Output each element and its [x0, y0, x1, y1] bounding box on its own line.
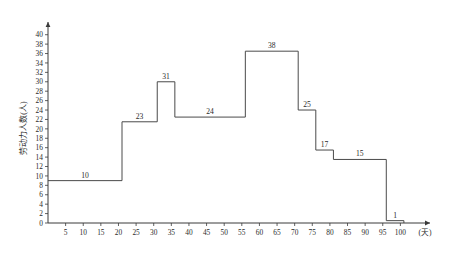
y-axis-tick-label: 8 [39, 181, 43, 190]
step-value-label: 24 [206, 107, 214, 116]
x-axis-arrow-icon [425, 221, 430, 226]
x-axis-tick-label: 45 [203, 228, 211, 237]
x-axis-tick-label: 70 [291, 228, 299, 237]
x-axis-tick-label: 85 [344, 228, 352, 237]
y-axis-title: 劳动力人数(人) [18, 101, 28, 155]
step-value-label: 38 [268, 41, 276, 50]
labor-force-step-chart: 0246810121416182022242628303234363840510… [0, 0, 464, 256]
y-axis-tick-label: 24 [36, 106, 44, 115]
step-value-label: 17 [321, 140, 329, 149]
x-axis-tick-label: 65 [273, 228, 281, 237]
step-value-label: 15 [356, 149, 364, 158]
y-axis-tick-label: 38 [36, 40, 44, 49]
y-axis-tick-label: 12 [36, 162, 44, 171]
y-axis-tick-label: 22 [36, 115, 44, 124]
x-axis-tick-label: 15 [97, 228, 105, 237]
x-axis-tick-label: 35 [168, 228, 176, 237]
x-axis-tick-label: 30 [150, 228, 158, 237]
y-axis-tick-label: 20 [36, 125, 44, 134]
x-axis-title: (天) [418, 228, 432, 237]
y-axis-tick-label: 0 [39, 219, 43, 228]
y-axis-tick-label: 32 [36, 68, 44, 77]
y-axis-tick-label: 26 [36, 96, 44, 105]
y-axis-tick-label: 34 [36, 59, 44, 68]
x-axis-tick-label: 50 [220, 228, 228, 237]
x-axis-tick-label: 40 [185, 228, 193, 237]
y-axis-tick-label: 6 [39, 190, 43, 199]
step-value-label: 10 [81, 171, 89, 180]
x-axis-tick-label: 20 [115, 228, 123, 237]
y-axis-tick-label: 14 [36, 153, 44, 162]
x-axis-tick-label: 55 [238, 228, 246, 237]
x-axis-tick-label: 25 [132, 228, 140, 237]
y-axis-tick-label: 40 [36, 30, 44, 39]
x-axis-tick-label: 60 [256, 228, 264, 237]
x-axis-tick-label: 95 [379, 228, 387, 237]
y-axis-tick-label: 10 [36, 172, 44, 181]
y-axis-tick-label: 16 [36, 143, 44, 152]
x-axis-tick-label: 100 [395, 228, 406, 237]
step-series-path [48, 51, 404, 223]
y-axis-arrow-icon [46, 22, 51, 27]
x-axis-tick-label: 80 [326, 228, 334, 237]
step-value-label: 31 [162, 72, 170, 81]
y-axis-tick-label: 18 [36, 134, 44, 143]
y-axis-tick-label: 36 [36, 49, 44, 58]
step-value-label: 23 [136, 112, 144, 121]
y-axis-tick-label: 2 [39, 209, 43, 218]
y-axis-tick-label: 30 [36, 77, 44, 86]
x-axis-tick-label: 75 [309, 228, 317, 237]
y-axis-tick-label: 28 [36, 87, 44, 96]
x-axis-tick-label: 5 [64, 228, 68, 237]
y-axis-tick-label: 4 [39, 200, 43, 209]
step-chart-figure: 0246810121416182022242628303234363840510… [0, 0, 464, 256]
step-value-label: 1 [393, 211, 397, 220]
x-axis-tick-label: 90 [361, 228, 369, 237]
step-value-label: 25 [303, 100, 311, 109]
x-axis-tick-label: 10 [80, 228, 88, 237]
